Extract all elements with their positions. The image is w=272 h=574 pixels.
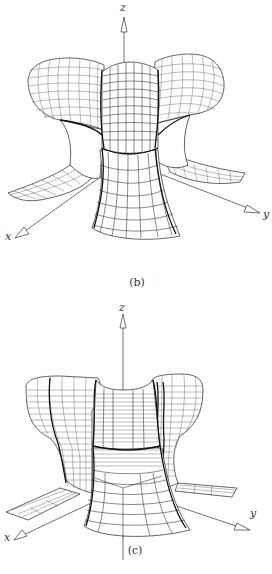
y-axis-arrow-icon: [244, 205, 260, 213]
z-axis-label: z: [120, 2, 126, 13]
wireframe-surface-b: [0, 0, 272, 295]
figure-caption-c: (c): [128, 545, 143, 556]
figure-c: z x y (c): [0, 298, 272, 568]
y-axis-label: y: [250, 508, 256, 519]
z-axis-arrow-icon: [120, 314, 126, 328]
x-axis-arrow-icon: [14, 530, 27, 540]
x-axis-label: x: [5, 231, 11, 242]
wireframe-surface-c: [0, 298, 272, 568]
y-axis-label: y: [263, 209, 269, 220]
figure-b: z x y (b): [0, 0, 272, 295]
figure-caption-b: (b): [129, 277, 145, 288]
z-axis-label: z: [119, 302, 125, 313]
z-axis-arrow-icon: [121, 17, 127, 32]
x-axis-label: x: [4, 532, 10, 543]
x-axis-arrow-icon: [15, 227, 29, 238]
y-axis-arrow-icon: [234, 523, 250, 530]
